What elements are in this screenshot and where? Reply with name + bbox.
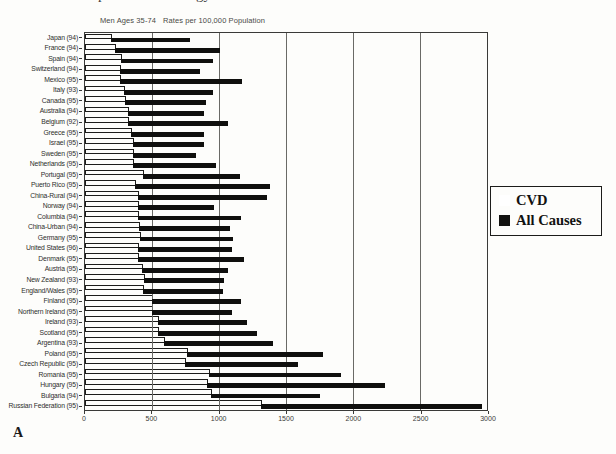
all-causes-bar	[120, 69, 200, 74]
all-causes-bar	[158, 331, 257, 336]
cvd-bar	[85, 389, 212, 395]
country-label-text: Romania (95)	[39, 371, 78, 378]
clipped-page-header: p gy	[0, 0, 616, 6]
country-label: Finland (95)	[0, 295, 82, 306]
country-label-text: Portugal (95)	[41, 171, 78, 178]
cvd-bar	[85, 306, 153, 312]
x-axis-tick	[151, 411, 152, 414]
country-label: Switzerland (94)	[0, 64, 82, 75]
all-causes-bar	[121, 59, 213, 64]
country-label: Russian Federation (95)	[0, 401, 82, 412]
all-causes-bar	[143, 174, 240, 179]
scanned-chart-page: p gy Men Ages 35-74 Rates per 100,000 Po…	[0, 0, 616, 454]
all-causes-bar	[138, 195, 268, 200]
cvd-bar	[85, 75, 121, 81]
country-label-text: Sweden (95)	[41, 150, 78, 157]
cvd-bar	[85, 44, 116, 50]
cvd-bar	[85, 232, 141, 238]
figure-panel-label: A	[13, 425, 23, 441]
all-causes-bar	[139, 226, 230, 231]
all-causes-swatch-icon	[499, 215, 510, 226]
country-label: China-Rural (94)	[0, 190, 82, 201]
country-label: Poland (95)	[0, 348, 82, 359]
country-label-text: Germany (95)	[38, 234, 78, 241]
all-causes-bar	[187, 352, 323, 357]
country-label: Italy (93)	[0, 85, 82, 96]
cvd-bar	[85, 358, 186, 364]
all-causes-bar	[128, 121, 229, 126]
y-axis-tick	[79, 227, 82, 228]
country-label: Norway (94)	[0, 201, 82, 212]
cvd-bar	[85, 379, 208, 385]
y-axis-tick	[79, 164, 82, 165]
country-label: New Zealand (93)	[0, 274, 82, 285]
country-label: Sweden (95)	[0, 148, 82, 159]
chart-subtitle-rates: Rates per 100,000 Population	[163, 16, 265, 26]
all-causes-bar	[152, 310, 232, 315]
x-axis-tick-label: 1000	[204, 415, 234, 422]
country-label-text: Columbia (94)	[37, 213, 78, 220]
country-label: England/Wales (95)	[0, 285, 82, 296]
y-axis-tick	[79, 301, 82, 302]
country-label-text: Russian Federation (95)	[9, 402, 78, 409]
cvd-bar	[85, 65, 121, 71]
country-label: Romania (95)	[0, 369, 82, 380]
x-axis-tick-label: 2000	[338, 415, 368, 422]
country-label-text: Hungary (95)	[40, 381, 78, 388]
country-label: Spain (94)	[0, 53, 82, 64]
country-label: Mexico (95)	[0, 74, 82, 85]
all-causes-bar	[138, 257, 245, 262]
cvd-bar	[85, 253, 139, 259]
x-axis-tick-label: 500	[136, 415, 166, 422]
country-label: France (94)	[0, 43, 82, 54]
cvd-bar	[85, 96, 126, 102]
all-causes-bar	[143, 289, 223, 294]
country-label-text: Netherlands (95)	[30, 160, 78, 167]
y-axis-tick	[79, 343, 82, 344]
all-causes-bar	[128, 111, 205, 116]
chart-subtitle-ages: Men Ages 35-74	[100, 16, 156, 26]
country-label-text: China-Rural (94)	[30, 192, 78, 199]
y-axis-tick	[79, 279, 82, 280]
legend-item-all-causes: All Causes	[499, 212, 593, 229]
x-axis-tick-label: 2500	[406, 415, 436, 422]
all-causes-bar	[164, 341, 274, 346]
country-label-text: England/Wales (95)	[21, 287, 78, 294]
y-axis-tick	[79, 364, 82, 365]
y-axis-tick	[79, 406, 82, 407]
country-label-text: Argentina (93)	[37, 339, 78, 346]
cvd-bar	[85, 180, 136, 186]
y-axis-tick	[79, 311, 82, 312]
all-causes-bar	[185, 362, 299, 367]
country-label-text: United States (96)	[26, 244, 78, 251]
all-causes-bar	[207, 383, 386, 388]
country-label-text: Bulgaria (94)	[41, 392, 78, 399]
y-axis-tick	[79, 374, 82, 375]
country-label: Portugal (95)	[0, 169, 82, 180]
y-axis-tick	[79, 100, 82, 101]
legend-label-cvd: CVD	[516, 192, 547, 209]
country-label: China-Urban (94)	[0, 222, 82, 233]
all-causes-bar	[133, 163, 216, 168]
country-label-text: Puerto Rico (95)	[31, 181, 78, 188]
y-axis-tick	[79, 185, 82, 186]
plot-area	[84, 32, 488, 411]
country-label-text: Australia (94)	[40, 107, 78, 114]
country-label: United States (96)	[0, 243, 82, 254]
country-label-text: Scotland (95)	[40, 329, 78, 336]
x-axis-tick	[84, 411, 85, 414]
y-axis-tick	[79, 143, 82, 144]
all-causes-bar	[138, 247, 233, 252]
country-label-text: New Zealand (93)	[26, 276, 78, 283]
all-causes-bar	[131, 132, 204, 137]
x-axis-tick-label: 1500	[271, 415, 301, 422]
country-label: Czech Republic (95)	[0, 358, 82, 369]
country-label-text: Greece (95)	[43, 129, 78, 136]
y-axis-tick	[79, 153, 82, 154]
country-label: Puerto Rico (95)	[0, 179, 82, 190]
y-axis-tick	[79, 290, 82, 291]
country-label-text: Canada (95)	[42, 97, 78, 104]
cvd-bar	[85, 211, 139, 217]
legend-item-cvd: CVD	[499, 192, 593, 209]
y-axis-tick	[79, 122, 82, 123]
